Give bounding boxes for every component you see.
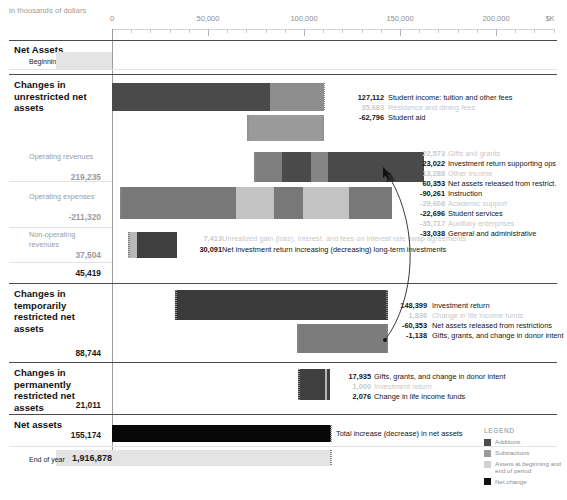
bar-group-student-revenue[interactable] [112, 83, 324, 111]
legend-item-subtractions: Subtractions [484, 449, 564, 457]
legend-title: LEGEND [484, 427, 564, 434]
rule-end-of-year [9, 446, 557, 447]
axis-tick-0: 0 [110, 14, 114, 23]
x-axis: 0 50,000 100,000 150,000 200,000 $K [112, 14, 555, 38]
legend-item-net-change: Net change [484, 478, 564, 486]
axis-tick-200000: 200,000 [482, 14, 509, 23]
rule-permanently-top [9, 362, 557, 363]
legend-swatch-net-change [484, 478, 491, 485]
legend-item-additions: Additions [484, 438, 564, 446]
rule-net-assets-top [9, 40, 557, 41]
bar-segment-pr-gifts-grants[interactable] [298, 369, 325, 400]
value-permanently-total: 21,011 [41, 400, 101, 410]
rule-below-beginning [9, 69, 557, 70]
axis-unit-suffix: $K [545, 14, 554, 23]
axis-tick-100000: 100,000 [290, 14, 317, 23]
units-note: in thousands of dollars [9, 6, 86, 15]
legend-swatch-additions [484, 439, 491, 446]
axis-tick-50000: 50,000 [197, 14, 220, 23]
legend: LEGEND Additions Subtractions Assets at … [484, 427, 564, 489]
bar-beginning-of-year [56, 52, 112, 69]
legend-label-assets: Assets at beginning and end of period [495, 460, 564, 474]
section-title-unrestricted: Changes in unrestricted net assets [14, 79, 106, 114]
legend-swatch-assets [484, 461, 491, 468]
mouse-cursor-icon [383, 167, 392, 180]
bar-segment-pr-life-income[interactable] [327, 369, 330, 400]
legend-item-assets: Assets at beginning and end of period [484, 460, 564, 474]
waterfall-chart: in thousands of dollars 0 50,000 100,000… [0, 0, 567, 500]
value-net-change: 155,174 [41, 430, 101, 440]
annotation-arrow [0, 150, 440, 360]
bar-net-change[interactable] [112, 425, 331, 442]
bar-group-permanently[interactable] [298, 369, 330, 400]
rule-unrestricted-top [9, 74, 557, 75]
legend-label-subtractions: Subtractions [495, 449, 529, 456]
value-end-of-year: 1,916,878 [42, 453, 112, 463]
legend-label-net-change: Net change [495, 478, 527, 485]
axis-tick-150000: 150,000 [386, 14, 413, 23]
legend-label-additions: Additions [495, 438, 520, 445]
bar-segment-student-income[interactable] [112, 83, 270, 111]
axis-baseline [112, 29, 555, 30]
section-title-net-assets-bottom: Net assets [14, 419, 62, 431]
rule-net-assets-bottom [9, 414, 557, 415]
bar-segment-student-aid[interactable] [247, 115, 324, 141]
bar-group-student-aid[interactable] [247, 115, 324, 141]
bar-segment-residence-dining[interactable] [270, 83, 324, 111]
legend-swatch-subtractions [484, 450, 491, 457]
